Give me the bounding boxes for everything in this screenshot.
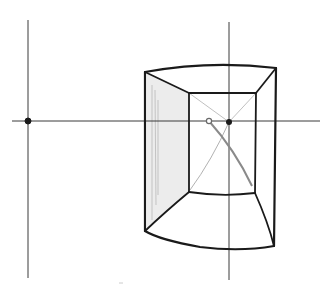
left-vanishing-point-icon [25, 118, 31, 124]
center-vanishing-point-icon [226, 119, 232, 125]
eye-point-icon [206, 118, 211, 123]
perspective-drawing [0, 0, 325, 288]
